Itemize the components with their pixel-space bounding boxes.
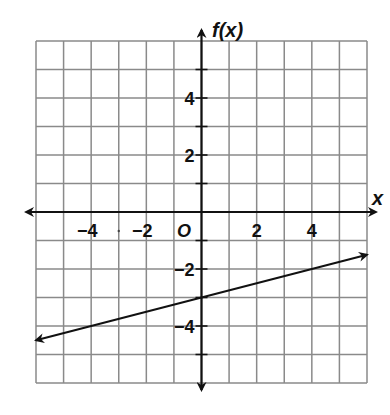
x-tick-label: 2 [252, 221, 262, 241]
axis-labels: f(x) x O [177, 19, 384, 241]
y-tick-label: 4 [184, 89, 194, 109]
coordinate-plane: f(x) x O −4−22442−2−4 [0, 0, 390, 415]
x-tick-label: −2 [132, 221, 153, 241]
y-tick-label: −2 [174, 260, 195, 280]
stray-dot [118, 230, 120, 232]
axes [26, 30, 376, 390]
y-tick-label: 2 [184, 146, 194, 166]
y-tick-label: −4 [174, 317, 195, 337]
y-axis-label: f(x) [212, 19, 243, 41]
origin-label: O [177, 221, 191, 241]
x-tick-label: 4 [307, 221, 317, 241]
x-axis-label: x [371, 187, 384, 209]
x-tick-label: −4 [77, 221, 98, 241]
